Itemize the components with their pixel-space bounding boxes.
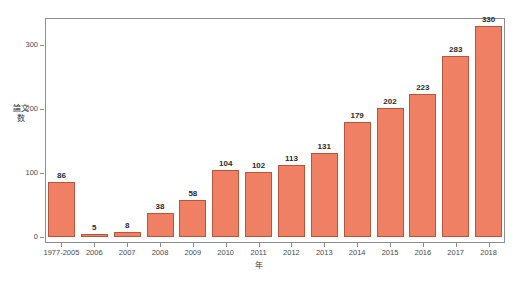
bar bbox=[311, 153, 338, 237]
x-axis-tick-label: 2013 bbox=[316, 248, 333, 257]
bar-value-label: 131 bbox=[318, 142, 331, 151]
y-axis-tick: 100 bbox=[0, 168, 45, 178]
bar-value-label: 104 bbox=[219, 159, 232, 168]
cut-off-caption bbox=[44, 0, 464, 9]
x-axis-tick-label: 2011 bbox=[250, 248, 266, 257]
x-axis-tick-label: 2018 bbox=[480, 248, 497, 257]
bar bbox=[442, 56, 469, 237]
bar bbox=[278, 165, 305, 237]
x-axis-title: 年 bbox=[0, 261, 518, 271]
bar bbox=[147, 213, 174, 237]
bar-value-label: 86 bbox=[57, 171, 66, 180]
bar bbox=[377, 108, 404, 237]
y-axis-tick-label: 0 bbox=[6, 232, 38, 242]
x-axis-tick-label: 2014 bbox=[349, 248, 366, 257]
x-axis-tick-mark bbox=[291, 243, 292, 247]
bar-value-label: 179 bbox=[350, 111, 363, 120]
bar-value-label: 38 bbox=[156, 202, 165, 211]
x-axis-tick-label: 2007 bbox=[119, 248, 136, 257]
x-axis-tick-mark bbox=[193, 243, 194, 247]
x-axis-tick-mark bbox=[489, 243, 490, 247]
x-axis-tick-mark bbox=[160, 243, 161, 247]
y-axis-tick-mark bbox=[40, 173, 44, 174]
bar bbox=[344, 122, 371, 237]
bar-value-label: 102 bbox=[252, 161, 265, 170]
x-axis-tick-label: 2016 bbox=[415, 248, 432, 257]
y-axis-tick-mark bbox=[40, 109, 44, 110]
x-axis-tick-label: 2017 bbox=[447, 248, 464, 257]
bar bbox=[81, 234, 108, 237]
x-axis-tick-mark bbox=[324, 243, 325, 247]
chart-figure: 論文数 0100200300 1977-20052006200720082009… bbox=[0, 0, 518, 284]
x-axis-tick-label: 2012 bbox=[283, 248, 300, 257]
bar-value-label: 113 bbox=[285, 154, 298, 163]
bar-value-label: 5 bbox=[92, 223, 96, 232]
y-axis-tick-label: 300 bbox=[6, 40, 38, 50]
bar-value-label: 58 bbox=[188, 189, 197, 198]
y-axis-tick: 200 bbox=[0, 104, 45, 114]
y-axis-tick-mark bbox=[40, 45, 44, 46]
x-axis-tick-label: 1977-2005 bbox=[43, 248, 79, 257]
bar bbox=[245, 172, 272, 237]
y-axis-tick: 300 bbox=[0, 40, 45, 50]
x-axis-tick-mark bbox=[94, 243, 95, 247]
bar bbox=[475, 26, 502, 237]
x-axis-tick-mark bbox=[226, 243, 227, 247]
x-axis-tick-mark bbox=[259, 243, 260, 247]
x-axis-tick-mark bbox=[127, 243, 128, 247]
x-axis-tick-mark bbox=[423, 243, 424, 247]
bar bbox=[48, 182, 75, 237]
x-axis-tick-label: 2008 bbox=[152, 248, 169, 257]
x-axis-tick-mark bbox=[390, 243, 391, 247]
x-axis-tick-label: 2015 bbox=[382, 248, 399, 257]
bar bbox=[212, 170, 239, 237]
bar-value-label: 8 bbox=[125, 221, 129, 230]
x-axis-tick-label: 2006 bbox=[86, 248, 103, 257]
bar-value-label: 223 bbox=[416, 83, 429, 92]
bar-value-label: 330 bbox=[482, 15, 495, 24]
x-axis-tick-label: 2009 bbox=[185, 248, 202, 257]
x-axis-tick-mark bbox=[61, 243, 62, 247]
x-axis-tick-label: 2010 bbox=[217, 248, 234, 257]
x-axis-tick-mark bbox=[456, 243, 457, 247]
y-axis-tick-mark bbox=[40, 237, 44, 238]
bar-value-label: 202 bbox=[383, 97, 396, 106]
y-axis-tick: 0 bbox=[0, 232, 45, 242]
bar-value-label: 283 bbox=[449, 45, 462, 54]
bar bbox=[409, 94, 436, 237]
x-axis-tick-mark bbox=[357, 243, 358, 247]
bar bbox=[179, 200, 206, 237]
y-axis-tick-label: 200 bbox=[6, 104, 38, 114]
y-axis-tick-label: 100 bbox=[6, 168, 38, 178]
bar bbox=[114, 232, 141, 237]
